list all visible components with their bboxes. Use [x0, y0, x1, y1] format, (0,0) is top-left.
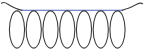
- coil-loop: [93, 11, 108, 48]
- coil-loop: [60, 11, 75, 48]
- coil-drawing-canvas: [0, 0, 144, 51]
- coil-loop: [110, 11, 125, 48]
- coil-loop: [26, 11, 41, 48]
- coil-loop: [43, 11, 58, 48]
- left-wire-lead-icon: [2, 3, 23, 11]
- coil-spring-illustration: [0, 0, 144, 51]
- coil-loop: [76, 11, 91, 48]
- right-wire-lead-icon: [122, 3, 143, 10]
- coil-loops: [9, 11, 125, 48]
- coil-loop: [9, 11, 24, 48]
